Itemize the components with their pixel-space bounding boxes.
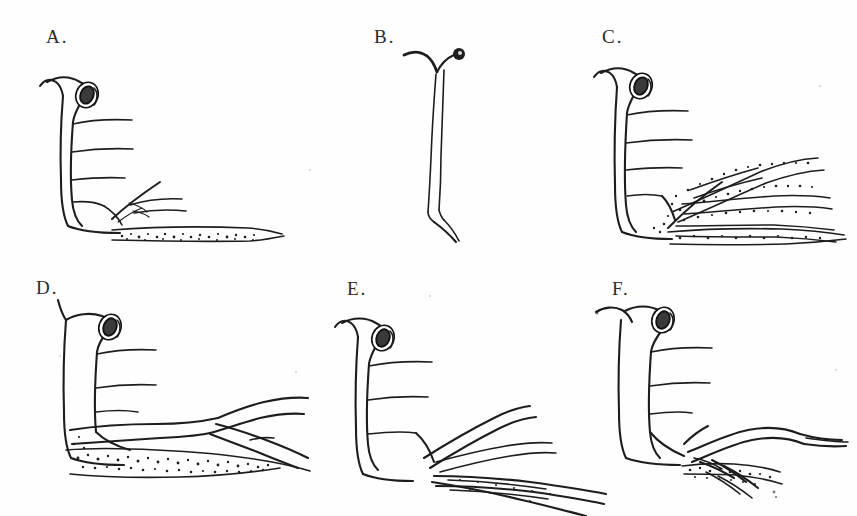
illustration-plate: A. B. C. D. E. F. <box>0 0 857 516</box>
panel-label-f: F. <box>612 278 630 300</box>
panel-label-c: C. <box>602 26 623 48</box>
panel-label-d: D. <box>36 277 58 299</box>
plate-drawing <box>0 0 857 516</box>
panel-label-a: A. <box>46 26 68 48</box>
plate-background <box>0 0 857 516</box>
panel-label-e: E. <box>347 278 367 300</box>
panel-label-b: B. <box>374 26 395 48</box>
